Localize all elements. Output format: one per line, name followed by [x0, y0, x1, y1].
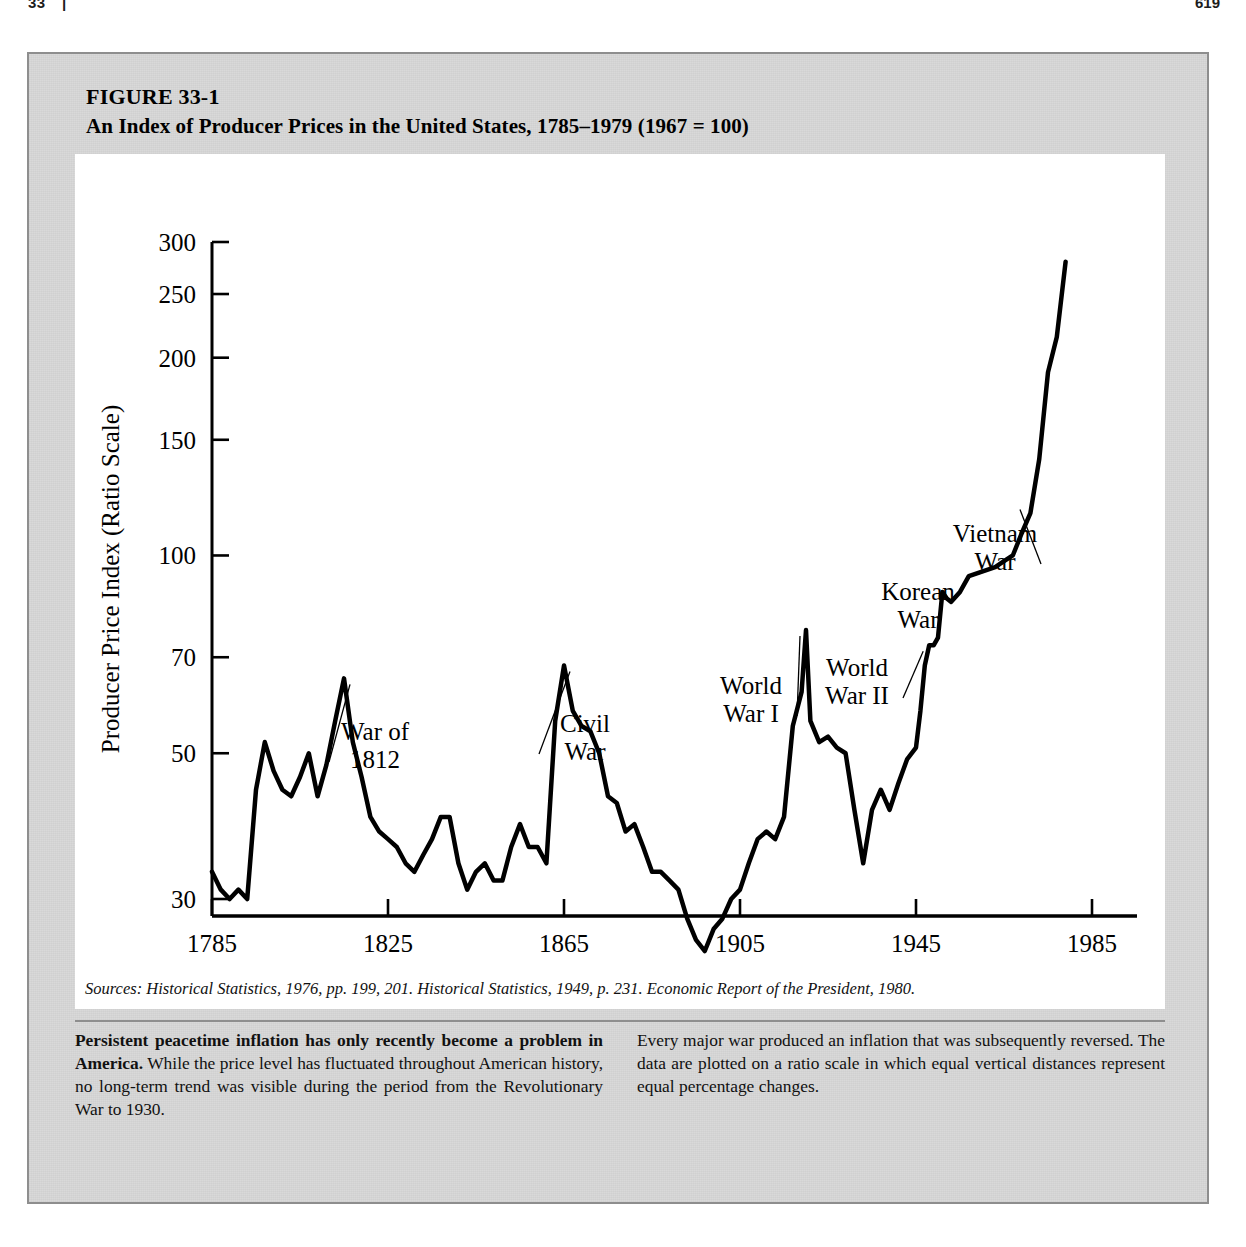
y-axis-tick-label: 150	[159, 427, 197, 454]
figure-caption: Persistent peacetime inflation has only …	[75, 1029, 1165, 1179]
x-axis-tick-label: 1825	[363, 930, 413, 957]
x-axis-tick-label: 1785	[187, 930, 237, 957]
caption-left-rest: While the price level has fluctuated thr…	[75, 1053, 603, 1119]
annotation-label: KoreanWar	[881, 578, 955, 633]
caption-column-right: Every major war produced an inflation th…	[637, 1029, 1165, 1179]
x-axis-tick-labels: 178518251865190519451985	[187, 930, 1117, 957]
y-axis-tick-label: 200	[159, 345, 197, 372]
figure-label: FIGURE 33-1	[86, 84, 220, 110]
y-axis-tick-label: 70	[171, 644, 196, 671]
y-axis-ticks	[212, 242, 229, 899]
annotation-label: CivilWar	[560, 710, 610, 765]
running-head-separator: |	[62, 0, 66, 11]
y-axis-tick-labels: 300250200150100705030	[159, 229, 197, 913]
annotation-label: WorldWar II	[825, 654, 889, 709]
caption-divider	[75, 1020, 1165, 1022]
figure-panel: FIGURE 33-1 An Index of Producer Prices …	[27, 52, 1209, 1204]
annotation-label: VietnamWar	[953, 520, 1038, 575]
chart-plate: 300250200150100705030 178518251865190519…	[75, 154, 1165, 1009]
x-axis-ticks	[212, 899, 1092, 916]
y-axis-tick-label: 250	[159, 281, 197, 308]
annotation-leader-lines	[329, 509, 1041, 762]
producer-price-index-chart: 300250200150100705030 178518251865190519…	[75, 154, 1165, 1009]
x-axis-tick-label: 1905	[715, 930, 765, 957]
caption-column-left: Persistent peacetime inflation has only …	[75, 1029, 603, 1179]
annotation-label: WorldWar I	[720, 672, 782, 727]
y-axis-tick-label: 300	[159, 229, 197, 256]
figure-title: An Index of Producer Prices in the Unite…	[86, 114, 749, 139]
x-axis-tick-label: 1945	[891, 930, 941, 957]
figure-source: Sources: Historical Statistics, 1976, pp…	[85, 979, 1165, 999]
running-head-page-number: 619	[1195, 0, 1220, 11]
y-axis-tick-label: 30	[171, 886, 196, 913]
running-head: 33 | 619	[0, 0, 1246, 22]
running-head-chapter: 33	[28, 0, 45, 11]
x-axis-tick-label: 1865	[539, 930, 589, 957]
annotation-label: War of1812	[341, 718, 410, 773]
x-axis-tick-label: 1985	[1067, 930, 1117, 957]
y-axis-tick-label: 50	[171, 740, 196, 767]
y-axis-title: Producer Price Index (Ratio Scale)	[97, 405, 125, 754]
y-axis-tick-label: 100	[159, 542, 197, 569]
